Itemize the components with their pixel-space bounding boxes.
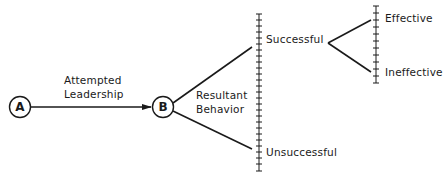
outcome-successful: Successful bbox=[266, 33, 324, 46]
outcome-unsuccessful: Unsuccessful bbox=[266, 146, 337, 159]
outcome-ineffective: Ineffective bbox=[385, 66, 443, 79]
branch-unsuccessful bbox=[173, 111, 252, 149]
branch-ineffective bbox=[328, 43, 371, 72]
node-a-label: A bbox=[10, 100, 30, 114]
outcome-effective: Effective bbox=[385, 12, 433, 25]
outcome-scale-long bbox=[256, 14, 262, 171]
edge-label-behavior: Behavior bbox=[196, 103, 244, 116]
outcome-scale-short bbox=[373, 6, 379, 83]
node-b-label: B bbox=[153, 100, 173, 114]
branch-effective bbox=[328, 20, 371, 43]
edge-label-leadership: Leadership bbox=[64, 88, 124, 101]
edge-label-attempted: Attempted bbox=[64, 74, 122, 87]
edge-label-resultant: Resultant bbox=[196, 89, 247, 102]
